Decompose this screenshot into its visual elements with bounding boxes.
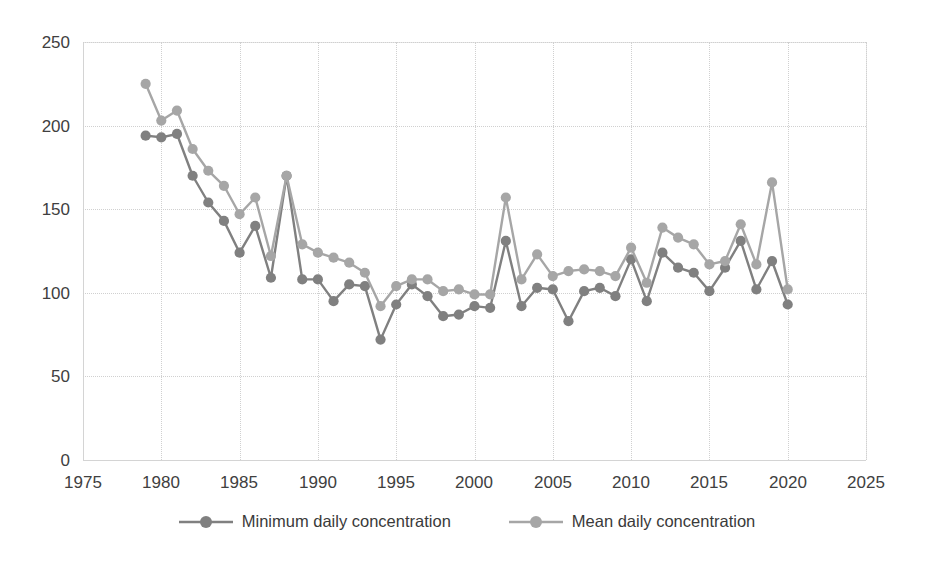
data-point[interactable] (657, 222, 667, 232)
data-point[interactable] (266, 273, 276, 283)
data-point[interactable] (548, 284, 558, 294)
data-point[interactable] (501, 192, 511, 202)
data-point[interactable] (720, 256, 730, 266)
data-point[interactable] (736, 236, 746, 246)
data-point[interactable] (235, 209, 245, 219)
x-tick-2015: 2015 (669, 474, 749, 491)
data-point[interactable] (642, 278, 652, 288)
data-point[interactable] (704, 286, 714, 296)
data-point[interactable] (454, 284, 464, 294)
data-point[interactable] (203, 197, 213, 207)
y-tick-0: 0 (10, 452, 70, 469)
data-point[interactable] (203, 166, 213, 176)
x-tick-1990: 1990 (278, 474, 358, 491)
data-point[interactable] (422, 274, 432, 284)
data-point[interactable] (375, 301, 385, 311)
y-tick-150: 150 (10, 201, 70, 218)
data-point[interactable] (328, 253, 338, 263)
data-point[interactable] (610, 271, 620, 281)
data-point[interactable] (689, 268, 699, 278)
data-point[interactable] (704, 259, 714, 269)
data-point[interactable] (783, 299, 793, 309)
data-point[interactable] (313, 248, 323, 258)
data-point[interactable] (360, 268, 370, 278)
data-point[interactable] (328, 296, 338, 306)
data-point[interactable] (141, 131, 151, 141)
series-minimum (141, 129, 793, 345)
data-point[interactable] (783, 284, 793, 294)
data-point[interactable] (188, 171, 198, 181)
data-point[interactable] (219, 216, 229, 226)
data-point[interactable] (501, 236, 511, 246)
data-point[interactable] (673, 263, 683, 273)
legend-item-mean[interactable]: Mean daily concentration (507, 512, 755, 531)
data-point[interactable] (235, 248, 245, 258)
data-point[interactable] (344, 258, 354, 268)
data-point[interactable] (266, 251, 276, 261)
y-tick-50: 50 (10, 368, 70, 385)
data-point[interactable] (767, 177, 777, 187)
data-point[interactable] (579, 286, 589, 296)
y-tick-250: 250 (10, 34, 70, 51)
data-point[interactable] (172, 105, 182, 115)
data-point[interactable] (313, 274, 323, 284)
data-point[interactable] (657, 248, 667, 258)
x-tick-2005: 2005 (513, 474, 593, 491)
data-point[interactable] (516, 274, 526, 284)
data-point[interactable] (172, 129, 182, 139)
data-point[interactable] (626, 243, 636, 253)
data-point[interactable] (141, 79, 151, 89)
data-point[interactable] (391, 281, 401, 291)
data-point[interactable] (344, 279, 354, 289)
data-point[interactable] (297, 239, 307, 249)
data-point[interactable] (689, 239, 699, 249)
data-point[interactable] (579, 264, 589, 274)
data-point[interactable] (250, 192, 260, 202)
data-point[interactable] (642, 296, 652, 306)
x-tick-1995: 1995 (356, 474, 436, 491)
data-point[interactable] (438, 286, 448, 296)
data-point[interactable] (454, 309, 464, 319)
data-point[interactable] (407, 274, 417, 284)
legend-item-minimum[interactable]: Minimum daily concentration (177, 512, 451, 531)
data-point[interactable] (156, 115, 166, 125)
data-point[interactable] (219, 181, 229, 191)
data-point[interactable] (516, 301, 526, 311)
series-plot (83, 42, 866, 460)
data-point[interactable] (391, 299, 401, 309)
data-point[interactable] (297, 274, 307, 284)
data-point[interactable] (375, 335, 385, 345)
data-point[interactable] (751, 259, 761, 269)
plot-area (83, 42, 866, 460)
data-point[interactable] (469, 301, 479, 311)
legend-marker-minimum-icon (177, 514, 235, 530)
data-point[interactable] (438, 311, 448, 321)
data-point[interactable] (281, 171, 291, 181)
legend-label-mean: Mean daily concentration (572, 512, 755, 531)
data-point[interactable] (736, 219, 746, 229)
data-point[interactable] (485, 303, 495, 313)
data-point[interactable] (767, 256, 777, 266)
data-point[interactable] (595, 266, 605, 276)
data-point[interactable] (532, 283, 542, 293)
data-point[interactable] (156, 132, 166, 142)
data-point[interactable] (422, 291, 432, 301)
data-point[interactable] (563, 316, 573, 326)
data-point[interactable] (563, 266, 573, 276)
data-point[interactable] (610, 291, 620, 301)
data-point[interactable] (548, 271, 558, 281)
data-point[interactable] (188, 144, 198, 154)
legend-label-minimum: Minimum daily concentration (242, 512, 451, 531)
chart-legend: Minimum daily concentration Mean daily c… (0, 512, 932, 531)
x-tick-1980: 1980 (121, 474, 201, 491)
data-point[interactable] (751, 284, 761, 294)
data-point[interactable] (250, 221, 260, 231)
data-point[interactable] (595, 283, 605, 293)
data-point[interactable] (469, 289, 479, 299)
x-tick-1985: 1985 (199, 474, 279, 491)
data-point[interactable] (485, 289, 495, 299)
x-axis-line (83, 460, 866, 461)
legend-marker-mean-icon (507, 514, 565, 530)
data-point[interactable] (673, 233, 683, 243)
data-point[interactable] (532, 249, 542, 259)
